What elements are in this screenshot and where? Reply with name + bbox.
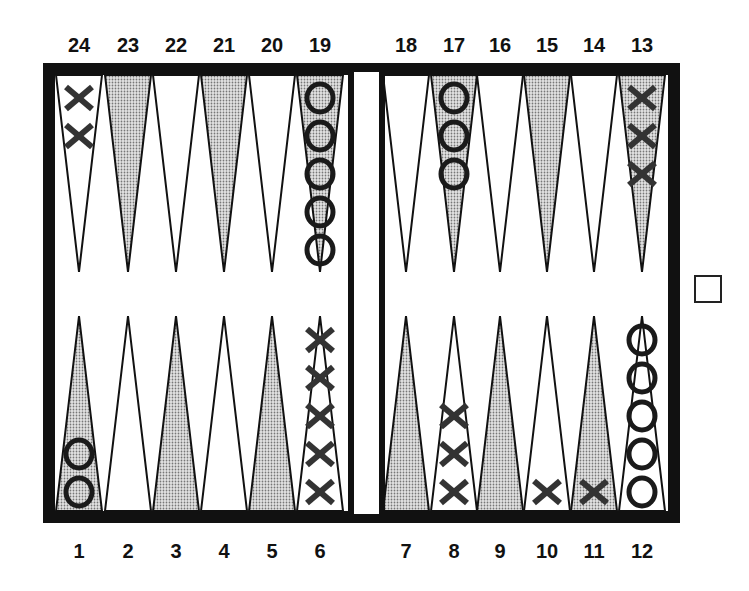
point-1[interactable] [56,316,102,511]
point-11[interactable] [571,316,617,511]
bar [351,69,382,517]
point-17[interactable] [431,75,477,272]
point-12[interactable] [619,316,665,511]
point-3[interactable] [153,316,199,511]
point-7[interactable] [383,316,429,511]
point-10[interactable] [524,316,570,511]
point-4[interactable] [201,316,247,511]
point-14[interactable] [571,75,617,272]
point-18[interactable] [383,75,429,272]
point-9[interactable] [477,316,523,511]
point-16[interactable] [477,75,523,272]
point-15[interactable] [524,75,570,272]
point-24[interactable] [56,75,102,272]
point-19[interactable] [297,75,343,272]
point-22[interactable] [153,75,199,272]
doubling-cube[interactable] [694,275,722,303]
point-5[interactable] [249,316,295,511]
point-21[interactable] [201,75,247,272]
point-23[interactable] [105,75,151,272]
point-2[interactable] [105,316,151,511]
backgammon-board [0,0,749,591]
point-20[interactable] [249,75,295,272]
